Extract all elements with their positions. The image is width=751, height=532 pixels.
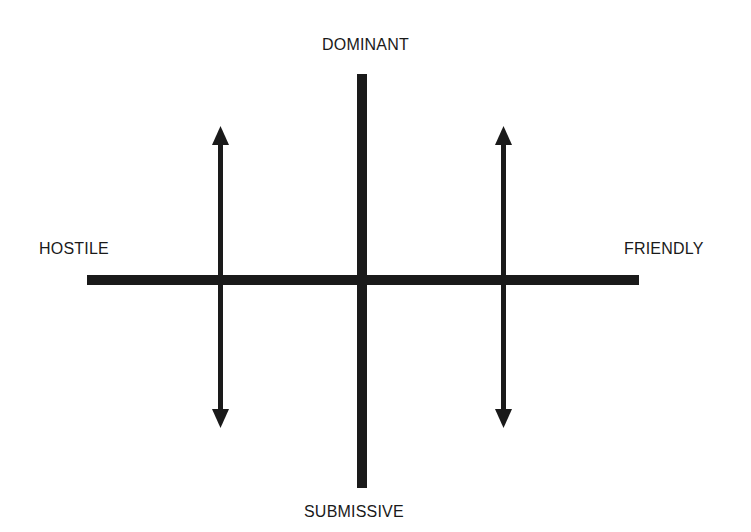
vertical-axis [357, 74, 367, 488]
interpersonal-circumplex-diagram [0, 0, 751, 532]
